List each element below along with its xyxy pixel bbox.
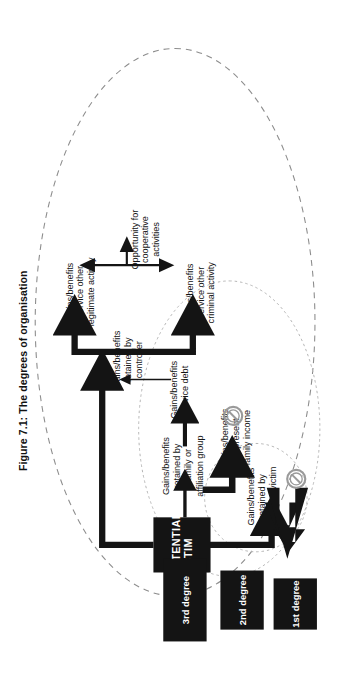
node-retained-by-controller: Gains/benefits retained by controller <box>112 330 145 389</box>
node-service-other-criminal: Gains/benefits service other criminal ac… <box>184 259 217 326</box>
node-service-debt: Gains/benefits service debt <box>169 361 191 418</box>
degree-box-3-label: 3rd degree <box>179 575 190 623</box>
node-service-debt-label: Gains/benefits service debt <box>169 360 190 418</box>
degree-box-2[interactable]: 2nd degree <box>220 570 263 629</box>
node-service-other-legitimate: Gains/benefits service other legitimate … <box>64 257 97 326</box>
node-retained-by-family-label: Gains/benefits retained by family or aff… <box>161 435 204 496</box>
diagram-stage: POTENTIAL VICTIM 1st degree 2nd degree 3… <box>27 36 334 647</box>
node-retained-by-controller-label: Gains/benefits retained by controller <box>112 330 144 388</box>
degree-box-1[interactable]: 1st degree <box>273 578 316 629</box>
node-opportunity-cooperative-label: Opportunity for cooperative activities <box>129 209 161 269</box>
node-service-other-legitimate-label: Gains/benefits service other legitimate … <box>64 257 96 326</box>
node-service-other-criminal-label: Gains/benefits service other criminal ac… <box>184 262 216 323</box>
node-retained-by-potential-victim-label: Gains/benefits retained by potential vic… <box>246 466 278 526</box>
degree-box-3[interactable]: 3rd degree <box>163 558 206 641</box>
prohibition-icon <box>222 405 244 427</box>
node-opportunity-cooperative: Opportunity for cooperative activities <box>129 198 162 281</box>
node-retained-by-family: Gains/benefits retained by family or aff… <box>161 432 205 499</box>
degree-box-1-label: 1st degree <box>289 580 300 627</box>
node-retained-by-potential-victim: Gains/benefits retained by potential vic… <box>246 464 279 529</box>
figure-page: Figure 7.1: The degrees of organisation <box>0 0 361 683</box>
degree-box-2-label: 2nd degree <box>236 574 247 624</box>
prohibition-icon <box>285 468 307 490</box>
figure-canvas: POTENTIAL VICTIM 1st degree 2nd degree 3… <box>27 36 334 647</box>
